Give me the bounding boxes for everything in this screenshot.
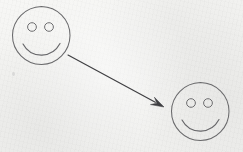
left-eye [28, 23, 37, 32]
paper-smudge-mark [12, 72, 15, 76]
arrow-shaft [68, 55, 155, 102]
smile-mouth [182, 120, 219, 132]
sketch-canvas: Hand-drawn diagram: two smiley faces con… [0, 0, 243, 152]
right-eye [204, 99, 213, 108]
face-outline-circle [171, 83, 229, 141]
face-outline-circle [12, 7, 70, 65]
diagram-drawing [0, 0, 243, 152]
smiley-face-source[interactable] [12, 7, 70, 65]
right-eye [45, 23, 54, 32]
arrow-head [150, 97, 164, 107]
smiley-face-target[interactable] [171, 83, 229, 141]
connector-arrow[interactable] [68, 55, 164, 107]
left-eye [187, 99, 196, 108]
smile-mouth [23, 44, 60, 56]
